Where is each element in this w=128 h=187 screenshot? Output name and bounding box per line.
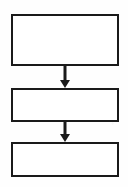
arrow-down-icon: [56, 122, 74, 142]
arrow-2-head: [60, 134, 70, 142]
arrow-1-head: [60, 80, 70, 88]
diagram-canvas: [0, 0, 128, 187]
arrow-down-icon: [56, 66, 74, 88]
flowchart-node-box-2[interactable]: [11, 88, 119, 122]
flowchart-connector-arrow-1: [56, 66, 74, 88]
flowchart-node-box-3[interactable]: [11, 142, 119, 177]
flowchart-connector-arrow-2: [56, 122, 74, 142]
flowchart-node-box-1[interactable]: [11, 14, 119, 66]
